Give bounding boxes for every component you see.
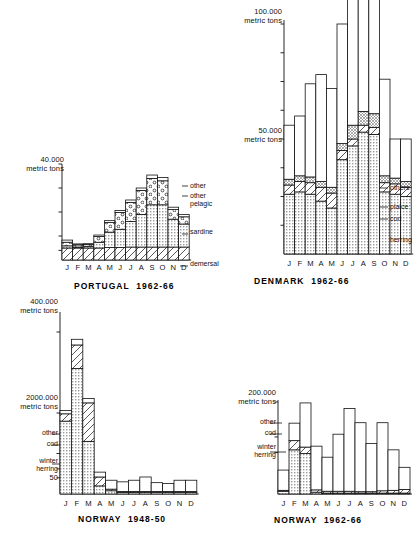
svg-text:N: N [170,263,176,272]
denmark-y-axis-top-label: 100.000 metric tons [214,8,282,25]
chart-portugal: 40.000 metric tons JFMAMJJASOND other ot… [0,148,228,298]
svg-text:F: F [75,499,80,508]
svg-text:J: J [118,263,122,272]
svg-text:J: J [129,263,133,272]
svg-text:N: N [392,259,398,268]
portugal-legend-sardine: sardine [190,228,213,236]
norway1962-title: NORWAY 1962-66 [274,515,362,525]
chart-denmark: 100.000 metric tons 50.000 metric tons J… [214,4,418,292]
svg-text:O: O [160,263,166,272]
svg-text:F: F [75,263,80,272]
svg-text:O: O [382,259,388,268]
norway1962-legend-other: other [240,418,276,426]
svg-text:A: A [96,263,102,272]
norway1962-y-axis-top-label: 200.000 metric tons [218,389,276,406]
denmark-plot: JFMAMJJASOND [214,4,418,292]
svg-text:A: A [318,259,324,268]
svg-text:J: J [347,499,351,508]
svg-text:A: A [314,499,320,508]
svg-text:O: O [379,499,385,508]
svg-text:J: J [281,499,285,508]
norway1948-y-axis-low-label: 50 [0,474,58,483]
norway1948-legend-winter-herring: winter herring [18,457,58,472]
denmark-legend-cod: cod [390,215,401,223]
svg-text:J: J [336,499,340,508]
norway1948-legend-cod: cod [28,440,58,448]
norway1948-legend-other: other [28,429,58,437]
svg-text:N: N [177,499,183,508]
norway-1948-plot: JFMAMJJASOND [0,294,210,534]
svg-text:M: M [85,263,92,272]
svg-text:A: A [97,499,103,508]
svg-text:J: J [64,499,68,508]
svg-text:N: N [391,499,397,508]
svg-text:D: D [403,259,409,268]
denmark-legend-others: others [390,184,409,192]
svg-text:A: A [143,499,149,508]
svg-text:J: J [287,259,291,268]
svg-text:M: M [108,499,115,508]
denmark-legend-herring: herring [390,236,412,244]
svg-text:D: D [181,263,187,272]
svg-text:J: J [132,499,136,508]
norway1962-legend-cod: cod [240,429,276,437]
svg-text:M: M [302,499,309,508]
svg-text:F: F [292,499,297,508]
svg-text:D: D [402,499,408,508]
svg-text:A: A [139,263,145,272]
svg-text:J: J [351,259,355,268]
portugal-y-axis-top-label: 40.000 metric tons [2,156,64,173]
denmark-title: DENMARK 1962-66 [254,276,349,286]
svg-text:M: M [324,499,331,508]
svg-text:M: M [307,259,314,268]
svg-text:M: M [106,263,113,272]
svg-text:M: M [328,259,335,268]
norway1962-legend-winter-herring: winter herring [230,443,276,458]
norway1948-title: NORWAY 1948-50 [78,514,166,524]
norway1948-y-axis-top-label: 400.000 metric tons [0,298,58,315]
svg-text:J: J [340,259,344,268]
portugal-legend-other: other [190,182,206,190]
portugal-legend-other-pelagic: other pelagic [190,192,212,207]
svg-text:S: S [149,263,154,272]
norway1948-y-axis-mid-label: 2000.000 metric tons [0,394,58,411]
denmark-y-axis-mid-label: 50.000 metric tons [214,127,282,144]
portugal-title: PORTUGAL 1962-66 [74,281,174,291]
svg-text:S: S [369,499,374,508]
svg-text:O: O [165,499,171,508]
svg-text:S: S [371,259,376,268]
svg-text:M: M [85,499,92,508]
svg-text:A: A [361,259,367,268]
svg-text:J: J [121,499,125,508]
svg-text:F: F [297,259,302,268]
chart-norway-1962: 200.000 metric tons other cod winter her… [210,382,418,534]
svg-text:S: S [154,499,159,508]
svg-text:D: D [188,499,194,508]
chart-norway-1948: 400.000 metric tons 2000.000 metric tons… [0,294,210,534]
svg-text:A: A [358,499,364,508]
denmark-legend-plaice: plaice [390,203,408,211]
svg-text:J: J [65,263,69,272]
